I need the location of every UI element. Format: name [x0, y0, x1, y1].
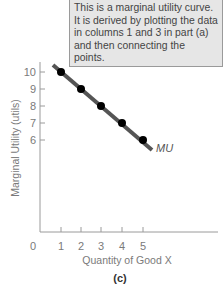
figure-caption: (c): [113, 272, 127, 284]
x-ticks: 0 1 2 3 4 5: [30, 227, 146, 252]
x-tick-label: 5: [140, 240, 146, 252]
y-tick-label: 10: [24, 66, 36, 78]
y-tick-label: 7: [30, 117, 36, 129]
y-axis-label: Marginal Utility (utils): [9, 99, 21, 196]
x-tick-label: 3: [98, 240, 104, 252]
x-tick-label: 1: [58, 240, 64, 252]
y-tick-label: 6: [30, 134, 36, 146]
y-tick-label: 9: [30, 83, 36, 95]
x-tick-label: 0: [30, 240, 36, 252]
mu-chart: 10 9 8 7 6 0 1 2 3 4 5 Quantity of Good …: [0, 0, 224, 286]
x-tick-label: 4: [119, 240, 125, 252]
x-tick-label: 2: [78, 240, 84, 252]
y-tick-label: 8: [30, 100, 36, 112]
y-ticks: 10 9 8 7 6: [24, 66, 45, 146]
x-axis-label: Quantity of Good X: [82, 254, 171, 266]
series-label: MU: [156, 142, 173, 154]
